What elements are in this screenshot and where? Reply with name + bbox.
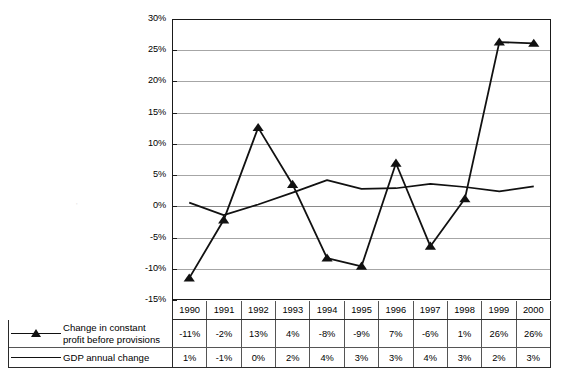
data-point-marker	[218, 215, 229, 223]
table-value-cell: 4%	[414, 348, 448, 367]
legend-key-line-icon	[9, 351, 63, 365]
table-value-cell: -1%	[207, 348, 241, 367]
table-value-cell: 4%	[276, 320, 310, 347]
y-tick-label: 15%	[126, 108, 166, 117]
legend-triangle-icon	[31, 329, 41, 337]
y-tick-mark	[172, 113, 177, 114]
y-tick-mark	[172, 50, 177, 51]
table-value-cell: 7%	[379, 320, 413, 347]
y-tick-label: 5%	[126, 170, 166, 179]
y-tick-mark	[172, 238, 177, 239]
year-header-cell: 1997	[414, 301, 448, 319]
y-tick-label: -10%	[126, 264, 166, 273]
y-tick-mark	[172, 175, 177, 176]
table-value-cell: 1%	[448, 320, 482, 347]
year-header-cell: 1993	[276, 301, 310, 319]
table-value-cell: 13%	[242, 320, 276, 347]
table-value-cell: -2%	[207, 320, 241, 347]
table-value-cell: 3%	[345, 348, 379, 367]
table-value-cell: 3%	[448, 348, 482, 367]
table-value-cell: -8%	[310, 320, 344, 347]
table-value-cell: 3%	[517, 348, 550, 367]
data-point-marker	[425, 242, 436, 250]
year-header-cell: 1994	[310, 301, 344, 319]
scan-artifact: '	[76, 201, 78, 210]
series-line-1	[189, 42, 534, 278]
year-header-cell: 1996	[379, 301, 413, 319]
legend-line	[11, 357, 61, 359]
y-tick-mark	[172, 300, 177, 301]
table-value-cell: 2%	[276, 348, 310, 367]
y-tick-label: 20%	[126, 76, 166, 85]
table-row: Change in constant profit before provisi…	[9, 320, 550, 348]
table-value-cell: 26%	[482, 320, 516, 347]
table-value-cell: 2%	[482, 348, 516, 367]
data-point-marker	[253, 123, 264, 131]
year-header-cell: 1998	[448, 301, 482, 319]
y-tick-mark	[172, 81, 177, 82]
y-tick-label: -15%	[126, 295, 166, 304]
y-tick-label: 10%	[126, 139, 166, 148]
data-point-marker	[184, 273, 195, 281]
data-point-marker	[321, 253, 332, 261]
year-header-cell: 1991	[207, 301, 241, 319]
year-header-cell: 1992	[242, 301, 276, 319]
legend-cell: GDP annual change	[9, 348, 173, 367]
y-tick-label: 25%	[126, 45, 166, 54]
year-header-cell: 1999	[482, 301, 516, 319]
series-line-2	[189, 180, 534, 215]
table-value-cell: 3%	[379, 348, 413, 367]
table-value-cell: 0%	[242, 348, 276, 367]
y-axis-tick-labels: 30%25%20%15%10%5%0%-5%-10%-15%	[126, 19, 166, 300]
year-header-cell: 1995	[345, 301, 379, 319]
y-tick-label: -5%	[126, 233, 166, 242]
legend-cell: Change in constant profit before provisi…	[9, 320, 173, 347]
y-tick-mark	[172, 269, 177, 270]
table-value-cell: 26%	[517, 320, 550, 347]
y-tick-mark	[172, 19, 177, 20]
y-tick-mark	[172, 206, 177, 207]
x-axis-year-header: 1990199119921993199419951996199719981999…	[172, 301, 551, 320]
data-point-marker	[287, 180, 298, 188]
series-layer	[172, 19, 551, 300]
table-value-cell: 1%	[173, 348, 207, 367]
data-point-marker	[459, 194, 470, 202]
legend-data-table: Change in constant profit before provisi…	[8, 320, 551, 368]
y-tick-mark	[172, 144, 177, 145]
year-header-cell: 2000	[517, 301, 550, 319]
data-point-marker	[390, 159, 401, 167]
legend-label: Change in constant profit before provisi…	[63, 322, 172, 345]
table-value-cell: -9%	[345, 320, 379, 347]
legend-label: GDP annual change	[63, 352, 172, 364]
legend-key-triangle-icon	[9, 327, 63, 341]
chart-figure: ' 30%25%20%15%10%5%0%-5%-10%-15% 1990199…	[0, 0, 573, 383]
value-cells: -11%-2%13%4%-8%-9%7%-6%1%26%26%	[173, 320, 550, 347]
table-value-cell: -6%	[414, 320, 448, 347]
y-tick-label: 30%	[126, 14, 166, 23]
y-tick-label: 0%	[126, 201, 166, 210]
table-value-cell: -11%	[173, 320, 207, 347]
table-row: GDP annual change1%-1%0%2%4%3%3%4%3%2%3%	[9, 348, 550, 367]
table-value-cell: 4%	[310, 348, 344, 367]
year-header-cell: 1990	[173, 301, 207, 319]
value-cells: 1%-1%0%2%4%3%3%4%3%2%3%	[173, 348, 550, 367]
